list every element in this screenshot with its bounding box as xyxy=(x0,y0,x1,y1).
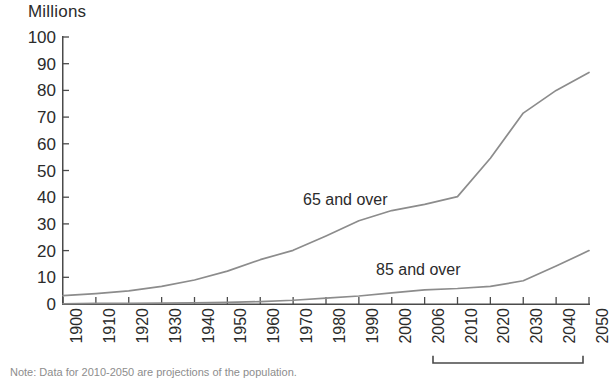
x-axis-tick-label: 1910 xyxy=(102,308,118,344)
series-label-85-and-over: 85 and over xyxy=(376,262,461,278)
y-axis-tick-label: 90 xyxy=(0,55,56,72)
y-axis-tick-label: 60 xyxy=(0,135,56,152)
y-axis-tick-label: 30 xyxy=(0,215,56,232)
projection-period-bracket xyxy=(432,355,584,364)
x-axis-tick-label: 1950 xyxy=(233,308,249,344)
x-axis-tick-label: 1970 xyxy=(299,308,315,344)
series-label-65-and-over: 65 and over xyxy=(303,192,388,208)
x-axis-tick-label: 2050 xyxy=(595,308,611,344)
x-axis-tick-label: 1960 xyxy=(266,308,282,344)
y-axis-tick-label: 0 xyxy=(0,296,56,313)
chart-footnote: Note: Data for 2010-2050 are projections… xyxy=(10,366,590,378)
x-axis-tick-label: 2030 xyxy=(529,308,545,344)
x-axis-tick-label: 1980 xyxy=(332,308,348,344)
axis-spines xyxy=(63,36,590,304)
x-axis-tick-label: 1900 xyxy=(69,308,85,344)
x-axis-tick-label: 1990 xyxy=(365,308,381,344)
y-axis-unit-label: Millions xyxy=(28,2,86,22)
y-axis-ticks xyxy=(63,37,69,277)
series-lines xyxy=(63,73,589,304)
y-axis-tick-label: 70 xyxy=(0,109,56,126)
x-axis-tick-label: 2006 xyxy=(431,308,447,344)
x-axis-tick-label: 2040 xyxy=(562,308,578,344)
x-axis-tick-label: 2020 xyxy=(496,308,512,344)
y-axis-tick-label: 10 xyxy=(0,269,56,286)
y-axis-tick-label: 100 xyxy=(0,29,56,46)
y-axis-tick-label: 20 xyxy=(0,242,56,259)
x-axis-tick-label: 2000 xyxy=(398,308,414,344)
x-axis-tick-label: 1920 xyxy=(135,308,151,344)
y-axis-tick-label: 40 xyxy=(0,189,56,206)
plot-area xyxy=(62,36,590,305)
x-axis-tick-label-group: 1900191019201930194019501960197019801990… xyxy=(62,305,590,361)
series-line-85-and-over xyxy=(63,251,589,304)
x-axis-tick-label: 1940 xyxy=(201,308,217,344)
series-line-65-and-over xyxy=(63,73,589,296)
y-axis-tick-label-group: 1009080706050403020100 xyxy=(0,36,56,305)
y-axis-tick-label: 80 xyxy=(0,82,56,99)
y-axis-tick-label: 50 xyxy=(0,162,56,179)
x-axis-tick-label: 1930 xyxy=(168,308,184,344)
x-axis-tick-label: 2010 xyxy=(464,308,480,344)
